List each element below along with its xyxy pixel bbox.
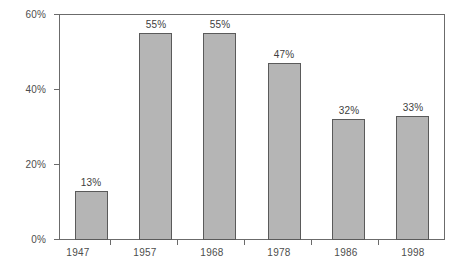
y-tick-label-40: 40% [25,84,46,95]
bar-chart: 60% 40% 20% 0% 1947 1957 1968 1978 1986 … [0,0,458,272]
x-tick-label-1998: 1998 [401,247,424,258]
bar-1978[interactable] [268,63,301,240]
y-axis: 60% 40% 20% 0% [0,0,59,272]
y-tick-mark-60 [54,14,60,15]
x-tick-mark-1 [110,240,111,245]
bar-value-1978: 47% [274,49,295,60]
bar-value-1998: 33% [403,102,424,113]
bar-1947[interactable] [75,191,108,240]
x-tick-label-1957: 1957 [133,247,156,258]
x-tick-label-1968: 1968 [200,247,223,258]
bar-1957[interactable] [139,33,172,240]
y-tick-label-20: 20% [25,159,46,170]
bar-1998[interactable] [396,116,429,240]
x-tick-mark-3 [244,240,245,245]
bar-value-1957: 55% [146,19,167,30]
x-tick-mark-5 [378,240,379,245]
x-tick-label-1986: 1986 [334,247,357,258]
x-tick-label-1978: 1978 [267,247,290,258]
bar-1986[interactable] [332,119,365,240]
x-tick-mark-2 [177,240,178,245]
bar-value-1968: 55% [210,19,231,30]
y-tick-mark-40 [54,89,60,90]
x-tick-mark-4 [311,240,312,245]
bar-value-1986: 32% [339,105,360,116]
x-tick-label-1947: 1947 [66,247,89,258]
bar-1968[interactable] [203,33,236,240]
y-tick-mark-20 [54,164,60,165]
bar-value-1947: 13% [81,177,102,188]
y-tick-label-60: 60% [25,9,46,20]
y-tick-mark-0 [54,239,60,240]
y-tick-label-0: 0% [31,234,46,245]
plot-area [59,14,445,240]
